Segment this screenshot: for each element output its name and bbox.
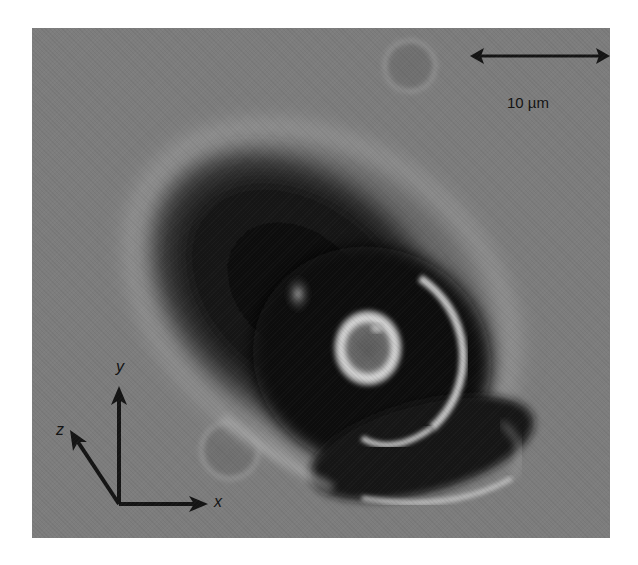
x-axis-label: x — [214, 493, 222, 511]
y-axis-label: y — [116, 358, 124, 376]
z-axis-label: z — [56, 421, 64, 439]
scale-bar-label: 10 µm — [507, 94, 549, 111]
micrograph-image: 10 µm x y z — [32, 28, 610, 538]
